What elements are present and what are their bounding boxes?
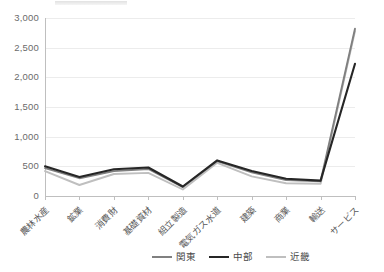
legend-swatch	[266, 256, 286, 258]
series-lines	[0, 0, 384, 272]
chart-legend: 関東中部近畿	[152, 252, 310, 262]
legend-swatch	[209, 256, 229, 258]
series-line	[45, 31, 355, 189]
legend-label: 中部	[233, 252, 253, 262]
legend-label: 近畿	[290, 252, 310, 262]
legend-item[interactable]: 中部	[209, 252, 253, 262]
legend-item[interactable]: 近畿	[266, 252, 310, 262]
line-chart: 3,0002,5002,0001,5001,0005000 農林水産鉱業消費財基…	[0, 0, 384, 272]
legend-label: 関東	[176, 252, 196, 262]
series-line	[45, 29, 355, 187]
legend-swatch	[152, 256, 172, 258]
series-line	[45, 64, 355, 187]
legend-item[interactable]: 関東	[152, 252, 196, 262]
